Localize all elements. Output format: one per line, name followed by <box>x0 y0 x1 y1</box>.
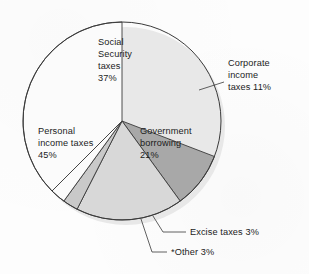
label-other: *Other 3% <box>171 247 214 257</box>
pie-chart-figure: Social Security taxes 37% Corporate inco… <box>0 0 309 274</box>
label-corporate-income-taxes: Corporate income taxes 11% <box>228 58 272 92</box>
leader-line-other <box>141 219 167 252</box>
label-excise-taxes: Excise taxes 3% <box>190 227 259 237</box>
pie-chart-svg: Social Security taxes 37% Corporate inco… <box>0 0 309 274</box>
